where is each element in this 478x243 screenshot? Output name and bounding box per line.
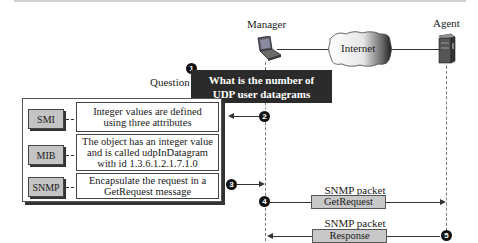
text-line: Integer values are defined <box>77 106 218 117</box>
arrowhead-right-icon <box>259 181 265 187</box>
question-label: Question <box>150 76 190 88</box>
step-4-badge: 4 <box>259 196 270 207</box>
arrowhead-left-icon <box>267 233 273 239</box>
layer-connector <box>66 187 74 188</box>
layer-connector <box>66 155 74 156</box>
step-5-badge: 5 <box>441 230 452 241</box>
question-line-1: What is the number of <box>191 73 332 87</box>
protocol-stack-panel: SMI Integer values are defined using thr… <box>22 98 222 202</box>
layer-tag-mib: MIB <box>28 145 64 165</box>
arrow-step-2 <box>233 116 259 117</box>
step-3-badge: 3 <box>226 179 237 190</box>
text-line: with id 1.3.6.1.2.1.7.1.0 <box>77 158 218 169</box>
packet-getrequest: GetRequest <box>311 195 386 209</box>
arrowhead-left-icon <box>228 113 234 119</box>
layer-tag-smi: SMI <box>28 109 64 129</box>
top-rule <box>14 0 466 2</box>
server-icon <box>436 33 458 65</box>
text-line: The object has an integer value <box>77 136 218 147</box>
step-2-badge: 2 <box>259 111 270 122</box>
text-line: using three attributes <box>77 117 218 128</box>
manager-label: Manager <box>247 18 286 30</box>
packet-2-caption: SNMP packet <box>320 217 390 229</box>
arrow-step-3 <box>237 184 259 185</box>
layer-desc-snmp: Encapsulate the request in a GetRequest … <box>76 173 219 199</box>
internet-label: Internet <box>341 42 375 54</box>
text-line: Encapsulate the request in a <box>77 175 218 186</box>
layer-connector <box>66 119 74 120</box>
layer-desc-smi: Integer values are defined using three a… <box>76 102 219 132</box>
agent-label: Agent <box>433 17 460 29</box>
packet-response: Response <box>312 229 387 243</box>
layer-desc-mib: The object has an integer value and is c… <box>76 134 219 171</box>
arrowhead-right-icon <box>440 199 446 205</box>
text-line: and is called udpInDatagram <box>77 147 218 158</box>
agent-lifeline <box>446 66 447 241</box>
text-line: GetRequest message <box>77 186 218 197</box>
layer-tag-snmp: SNMP <box>28 177 64 197</box>
